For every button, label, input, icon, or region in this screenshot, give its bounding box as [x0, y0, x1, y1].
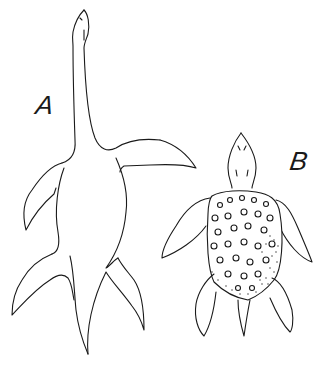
- label-b: B: [288, 148, 309, 174]
- plesiosaur-drawing: [12, 10, 196, 354]
- illustration-figure: A B: [0, 0, 323, 366]
- label-a: A: [34, 92, 55, 118]
- drawing-canvas: [0, 0, 323, 366]
